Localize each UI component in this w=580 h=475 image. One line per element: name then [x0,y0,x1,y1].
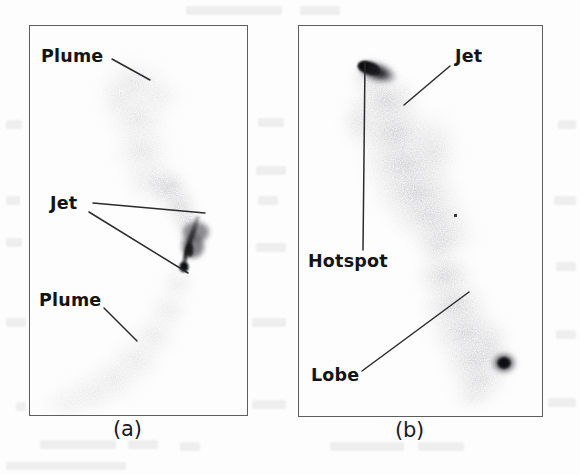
annotation-label-jet-a: Jet [50,195,77,213]
point-source [454,214,457,217]
figure-root: Plume Jet Plume Jet Hotspot Lobe (a) (b) [0,0,580,475]
annotation-label-jet-b: Jet [455,48,482,66]
panel-caption-b: (b) [395,418,424,442]
panel-caption-a: (a) [113,417,142,441]
panel-a [29,25,248,416]
emission-lower-hotspot [490,351,518,375]
annotation-label-plume-top: Plume [41,48,103,66]
annotation-label-plume-bottom: Plume [39,292,101,310]
emission-upper-lobe [337,58,485,260]
panel-b-image [299,26,543,417]
panel-b [298,25,543,417]
annotation-label-lobe: Lobe [311,367,359,385]
emission-plume-lower [36,266,198,416]
annotation-label-hotspot: Hotspot [308,253,388,271]
panel-a-image [30,26,248,416]
emission-lower-lobe [411,228,519,412]
